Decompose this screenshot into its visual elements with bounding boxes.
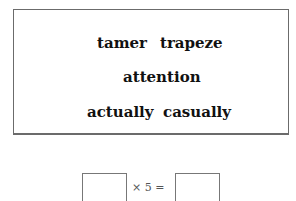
left-answer-box[interactable] [82,173,127,201]
equation-operator: × 5 = [132,181,164,194]
word-attention: attention [123,68,201,86]
word-tamer: tamer [97,34,147,52]
right-answer-box[interactable] [175,173,220,201]
equation-row: × 5 = [0,173,296,201]
word-actually: actually [87,103,154,121]
word-trapeze: trapeze [160,34,223,52]
word-panel: tamer trapeze attention actually casuall… [13,9,289,135]
word-casually: casually [163,103,231,121]
